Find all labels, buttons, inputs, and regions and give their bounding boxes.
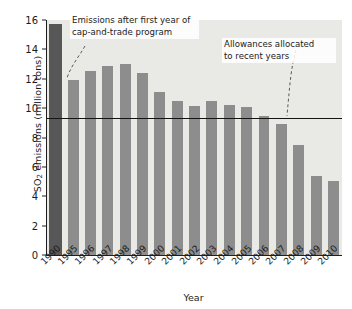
bar-2007	[276, 124, 287, 255]
y-tick-label: 14	[25, 44, 38, 55]
so2-emissions-bar-chart: SO2 emissions (million tons) 02468101214…	[0, 0, 352, 309]
y-axis: 0246810121416	[0, 0, 46, 309]
y-tick-label: 6	[32, 161, 38, 172]
bar-2008	[293, 145, 304, 255]
bar-1997	[102, 66, 113, 255]
bar-slot	[134, 20, 151, 255]
allowance-reference-line	[47, 118, 342, 119]
bar-1990	[49, 24, 61, 255]
bar-1996	[85, 71, 96, 255]
bar-slot	[151, 20, 168, 255]
y-tick-label: 10	[25, 103, 38, 114]
bar-slot	[186, 20, 203, 255]
bar-slot	[64, 20, 81, 255]
y-tick-label: 4	[32, 191, 38, 202]
y-tick-label: 8	[32, 132, 38, 143]
y-tick-label: 16	[25, 15, 38, 26]
x-axis: 1990199519961997199819992000200120022003…	[46, 257, 341, 291]
bar-2001	[172, 101, 183, 255]
bar-slot	[169, 20, 186, 255]
annotation-allowances: Allowances allocated to recent years	[222, 38, 336, 63]
bar-slot	[116, 20, 133, 255]
bar-2002	[189, 106, 200, 255]
bar-2005	[241, 107, 252, 255]
annotation-cap-and-trade: Emissions after first year of cap-and-tr…	[70, 14, 199, 39]
bar-slot	[82, 20, 99, 255]
bar-slot	[47, 20, 64, 255]
bar-slot	[99, 20, 116, 255]
bar-2004	[224, 105, 235, 255]
bar-1999	[137, 73, 148, 255]
y-tick-label: 12	[25, 73, 38, 84]
bar-1995	[68, 80, 79, 255]
bar-1998	[120, 64, 131, 255]
bar-slot	[203, 20, 220, 255]
y-tick-label: 2	[32, 220, 38, 231]
bar-2006	[259, 116, 270, 255]
x-axis-title: Year	[46, 292, 341, 303]
bar-2000	[154, 92, 165, 255]
bar-2003	[206, 101, 217, 255]
x-label-slot: 2010	[324, 257, 341, 291]
